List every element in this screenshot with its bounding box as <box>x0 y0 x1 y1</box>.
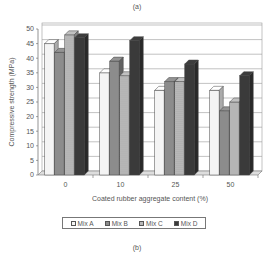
legend-label: Mix C <box>146 220 163 227</box>
y-tick-label: 40 <box>26 55 34 62</box>
y-tick-label: 15 <box>26 128 34 135</box>
legend-swatch-icon <box>174 221 179 226</box>
bar-chart: 051015202530354045500102550Coated rubber… <box>0 0 274 215</box>
y-axis-title: Compressive strength (MPa) <box>8 57 16 146</box>
x-axis-title: Coated rubber aggregate content (%) <box>92 195 208 203</box>
y-tick-label: 25 <box>26 98 34 105</box>
y-tick-label: 10 <box>26 142 34 149</box>
chart-legend: Mix AMix BMix CMix D <box>62 217 206 229</box>
y-tick-label: 50 <box>26 25 34 32</box>
y-tick-label: 5 <box>30 157 34 164</box>
x-tick-label: 50 <box>227 181 235 188</box>
y-tick-label: 0 <box>30 171 34 178</box>
legend-swatch-icon <box>71 221 76 226</box>
x-tick-label: 0 <box>64 181 68 188</box>
y-tick-label: 30 <box>26 84 34 91</box>
bar <box>240 72 254 175</box>
bar <box>130 37 144 175</box>
legend-item: Mix C <box>139 220 163 227</box>
legend-label: Mix A <box>78 220 94 227</box>
y-tick-label: 35 <box>26 69 34 76</box>
legend-swatch-icon <box>139 221 144 226</box>
x-tick-label: 25 <box>172 181 180 188</box>
bar <box>185 60 199 175</box>
legend-item: Mix A <box>71 220 94 227</box>
caption-bottom: (b) <box>117 244 157 251</box>
legend-swatch-icon <box>105 221 110 226</box>
legend-item: Mix B <box>105 220 128 227</box>
legend-label: Mix B <box>112 220 128 227</box>
x-tick-label: 10 <box>117 181 125 188</box>
bar <box>75 34 89 175</box>
y-tick-label: 20 <box>26 113 34 120</box>
legend-item: Mix D <box>174 220 198 227</box>
y-tick-label: 45 <box>26 40 34 47</box>
legend-label: Mix D <box>181 220 198 227</box>
